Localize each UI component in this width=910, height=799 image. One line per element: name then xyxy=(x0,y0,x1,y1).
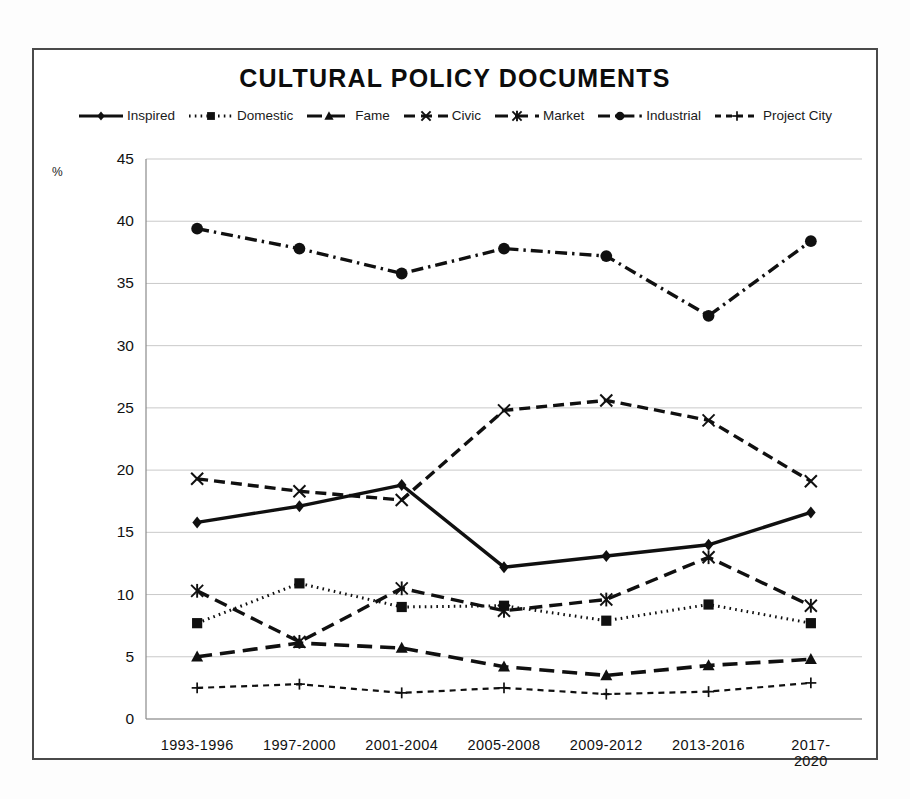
series-domestic xyxy=(192,578,816,628)
series-civic xyxy=(191,394,817,506)
x-axis-tick-label: 2013-2016 xyxy=(672,737,745,753)
plot-area: % 051015202530354045 1993-19961997-20002… xyxy=(34,50,880,762)
chart-figure-frame: CULTURAL POLICY DOCUMENTS InspiredDomest… xyxy=(32,48,878,760)
y-axis-tick-label: 15 xyxy=(94,523,134,541)
figure-page: CULTURAL POLICY DOCUMENTS InspiredDomest… xyxy=(0,0,910,799)
x-axis-tick-label: 2001-2004 xyxy=(365,737,438,753)
y-axis-tick-label: 25 xyxy=(94,399,134,417)
series-fame xyxy=(191,637,817,680)
y-axis-tick-label: 20 xyxy=(94,461,134,479)
series-inspired xyxy=(192,479,815,573)
y-axis-tick-label: 40 xyxy=(94,212,134,230)
x-axis-tick-label: 2009-2012 xyxy=(570,737,643,753)
chart-canvas xyxy=(34,50,880,762)
y-axis-tick-label: 45 xyxy=(94,150,134,168)
series-industrial xyxy=(191,223,816,322)
x-axis-tick-label: 2005-2008 xyxy=(468,737,541,753)
y-axis-tick-label: 10 xyxy=(94,586,134,604)
y-axis-tick-label: 0 xyxy=(94,710,134,728)
y-axis-tick-label: 30 xyxy=(94,337,134,355)
x-axis-tick-label: 1993-1996 xyxy=(161,737,234,753)
figure-caption xyxy=(36,768,876,794)
x-axis-tick-label: 2017-2020 xyxy=(776,737,845,769)
series-project-city xyxy=(192,677,817,699)
y-axis-tick-label: 35 xyxy=(94,274,134,292)
y-axis-tick-label: 5 xyxy=(94,648,134,666)
x-axis-tick-label: 1997-2000 xyxy=(263,737,336,753)
